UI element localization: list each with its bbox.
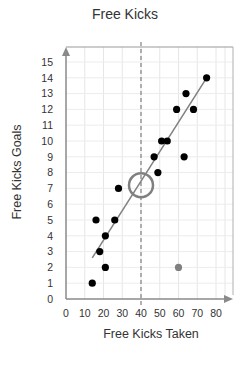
data-point [96,248,103,255]
y-tick-label: 15 [41,56,53,68]
data-point [182,90,189,97]
y-tick-label: 11 [42,119,53,131]
y-tick-label: 4 [47,230,53,242]
trend-line [92,78,206,258]
x-tick-label: 60 [173,307,185,319]
data-point [102,232,109,239]
y-axis-arrow-icon [62,47,70,56]
y-tick-label: 1 [47,277,53,289]
y-tick-label: 8 [47,166,53,178]
data-point [111,216,118,223]
x-tick-label: 10 [79,307,91,319]
x-tick-label: 0 [63,307,69,319]
y-axis-ticks: 0123456789101112131415 [41,56,53,305]
y-tick-label: 10 [41,135,53,147]
x-tick-label: 50 [154,307,166,319]
data-point [181,153,188,160]
y-tick-label: 14 [41,72,53,84]
data-points [89,74,211,287]
scatter-plot: 0123456789101112131415 01020304050607080 [0,0,250,365]
x-tick-label: 30 [116,307,128,319]
x-tick-label: 40 [135,307,147,319]
data-point [115,185,122,192]
data-point [173,106,180,113]
y-tick-label: 5 [47,214,53,226]
y-tick-label: 2 [47,261,53,273]
grid-lines [66,47,233,299]
data-point [89,280,96,287]
x-tick-label: 70 [191,307,203,319]
y-tick-label: 0 [47,293,53,305]
y-tick-label: 3 [47,245,53,257]
x-tick-label: 80 [210,307,222,319]
y-tick-label: 6 [47,198,53,210]
data-point [203,74,210,81]
y-tick-label: 9 [47,151,53,163]
x-axis-ticks: 01020304050607080 [63,307,222,319]
y-tick-label: 12 [41,103,53,115]
y-tick-label: 7 [47,182,53,194]
data-point [164,137,171,144]
data-point [102,264,109,271]
y-tick-label: 13 [41,87,53,99]
data-point [151,153,158,160]
best-fit-line [92,78,206,258]
data-point [154,169,161,176]
x-tick-label: 20 [98,307,110,319]
outlier-point [175,264,182,271]
x-axis-arrow-icon [224,295,233,303]
data-point [92,216,99,223]
data-point [190,106,197,113]
